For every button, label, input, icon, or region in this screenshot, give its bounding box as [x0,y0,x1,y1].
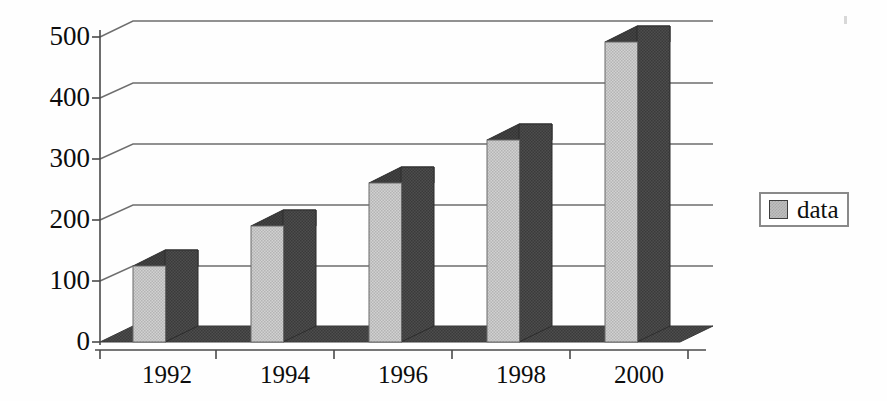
x-axis-label-1996: 1996 [353,362,453,387]
chart-page: 500 400 300 200 100 0 1992 1994 1996 199… [0,0,887,401]
x-axis-label-1992: 1992 [117,362,217,387]
x-axis-labels: 1992 1994 1996 1998 2000 [0,0,740,401]
x-axis-label-1994: 1994 [235,362,335,387]
series-color-swatch-icon [769,200,788,219]
x-axis-label-1998: 1998 [471,362,571,387]
scan-speck [844,16,847,24]
chart-legend[interactable]: data [759,192,849,227]
x-axis-label-2000: 2000 [589,362,689,387]
legend-entry-label: data [797,197,839,222]
bar-chart: 500 400 300 200 100 0 1992 1994 1996 199… [0,0,740,401]
